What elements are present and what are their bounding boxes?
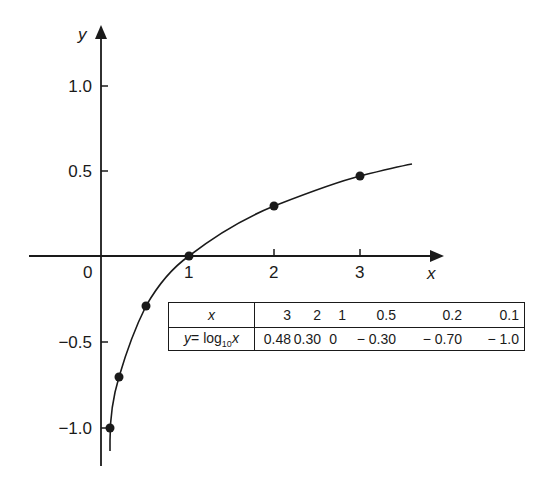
point-2 bbox=[270, 202, 279, 211]
table-cell: − 0.70 bbox=[396, 327, 462, 351]
y-tick-label-neg-0.5: −0.5 bbox=[58, 333, 92, 352]
table-cell: − 0.30 bbox=[337, 327, 396, 351]
table-cell: 0.30 bbox=[291, 327, 321, 351]
point-1 bbox=[185, 252, 194, 261]
x-ticks bbox=[274, 249, 360, 256]
point-0.5 bbox=[142, 302, 151, 311]
table-row-x: x 3 2 1 0.5 0.2 0.1 bbox=[169, 303, 524, 328]
x-tick-label-1: 1 bbox=[184, 263, 193, 282]
x-tick-label-3: 3 bbox=[355, 263, 364, 282]
table-cell: 2 bbox=[291, 303, 321, 327]
values-table: x 3 2 1 0.5 0.2 0.1 y= log10x 0.48 0.30 … bbox=[168, 302, 525, 351]
y-tick-label-0.5: 0.5 bbox=[68, 162, 92, 181]
y-tick-label-1.0: 1.0 bbox=[68, 77, 92, 96]
origin-label: 0 bbox=[83, 263, 92, 282]
point-0.2 bbox=[115, 373, 124, 382]
y-axis-arrow-icon bbox=[95, 25, 107, 39]
x-axis-arrow-icon bbox=[430, 250, 444, 262]
table-cell: 0.48 bbox=[255, 327, 291, 351]
x-tick-label-2: 2 bbox=[269, 263, 278, 282]
table-row-y: y= log10x 0.48 0.30 0 − 0.30 − 0.70 − 1.… bbox=[169, 327, 524, 351]
point-3 bbox=[356, 172, 365, 181]
table-cell: 0.1 bbox=[462, 303, 519, 327]
table-cell: − 1.0 bbox=[462, 327, 519, 351]
table-header-y: y= log10x bbox=[169, 327, 255, 351]
table-cell: 3 bbox=[255, 303, 291, 327]
y-axis-label: y bbox=[77, 25, 88, 44]
y-ticks bbox=[101, 86, 108, 428]
y-tick-label-neg-1.0: −1.0 bbox=[58, 419, 92, 438]
table-cell: 0 bbox=[321, 327, 337, 351]
x-axis-label: x bbox=[426, 264, 436, 283]
point-0.1 bbox=[106, 424, 115, 433]
table-cell: 1 bbox=[321, 303, 346, 327]
table-cell: 0.2 bbox=[396, 303, 462, 327]
log-chart: y x 0 1 2 3 1.0 0.5 −0.5 −1.0 bbox=[0, 0, 554, 487]
table-cell: 0.5 bbox=[346, 303, 396, 327]
table-header-x: x bbox=[169, 303, 255, 327]
